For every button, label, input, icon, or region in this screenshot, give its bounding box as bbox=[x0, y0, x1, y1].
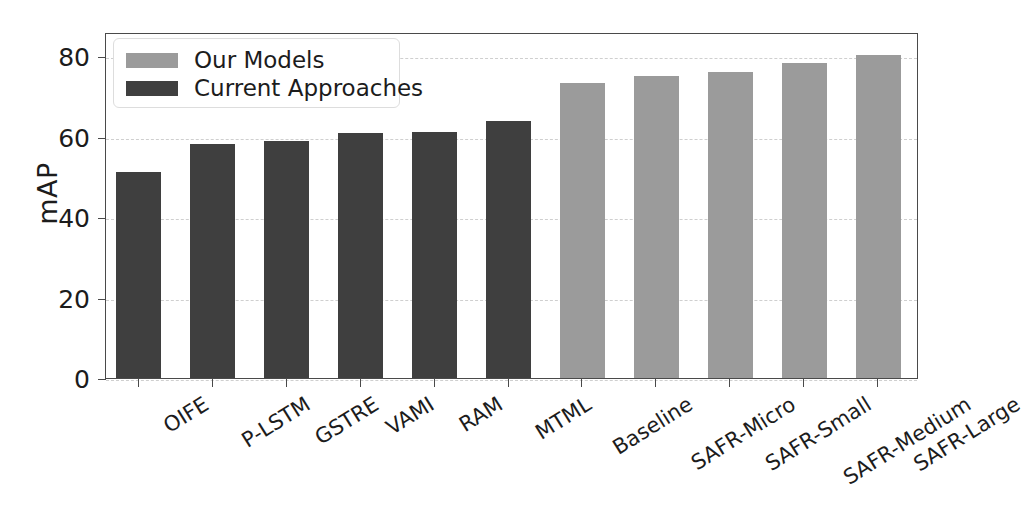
x-tick-mark-1 bbox=[212, 379, 213, 387]
y-tick-label-0: 0 bbox=[28, 365, 90, 394]
x-tick-mark-4 bbox=[434, 379, 435, 387]
legend-label: Current Approaches bbox=[194, 77, 423, 100]
legend-label: Our Models bbox=[194, 49, 325, 72]
x-tick-label-ram: RAM bbox=[455, 392, 507, 437]
bar-vami bbox=[338, 133, 383, 378]
legend-swatch-icon-dark bbox=[126, 81, 178, 96]
x-tick-mark-9 bbox=[803, 379, 804, 387]
x-tick-label-gstre: GSTRE bbox=[310, 392, 382, 450]
bar-mtml bbox=[486, 121, 531, 378]
bar-safr-small bbox=[708, 72, 753, 378]
bar-safr-large bbox=[856, 55, 901, 378]
x-tick-mark-2 bbox=[286, 379, 287, 387]
x-tick-mark-0 bbox=[138, 379, 139, 387]
x-tick-label-oife: OIFE bbox=[159, 392, 212, 438]
legend-entry-current-approaches: Current Approaches bbox=[126, 74, 387, 102]
x-tick-label-vami: VAMI bbox=[382, 392, 439, 440]
x-tick-mark-6 bbox=[581, 379, 582, 387]
y-tick-label-40: 40 bbox=[28, 204, 90, 233]
x-tick-mark-8 bbox=[729, 379, 730, 387]
x-tick-label-p-lstm: P-LSTM bbox=[237, 392, 314, 453]
x-tick-label-baseline: Baseline bbox=[609, 392, 697, 460]
bar-safr-micro bbox=[634, 76, 679, 378]
legend-swatch-icon-light bbox=[126, 53, 178, 68]
bar-oife bbox=[116, 172, 161, 378]
x-tick-mark-3 bbox=[360, 379, 361, 387]
bar-gstre bbox=[264, 141, 309, 378]
bar-ram bbox=[412, 132, 457, 378]
bar-p-lstm bbox=[190, 144, 235, 378]
y-tick-label-60: 60 bbox=[28, 123, 90, 152]
legend: Our ModelsCurrent Approaches bbox=[113, 38, 400, 108]
x-tick-label-mtml: MTML bbox=[531, 392, 595, 445]
y-tick-label-80: 80 bbox=[28, 43, 90, 72]
x-tick-mark-7 bbox=[655, 379, 656, 387]
x-tick-mark-5 bbox=[508, 379, 509, 387]
y-tick-label-20: 20 bbox=[28, 284, 90, 313]
bar-safr-medium bbox=[782, 63, 827, 378]
y-tick-mark-0 bbox=[98, 379, 106, 380]
gridline-y-0 bbox=[106, 380, 917, 381]
x-tick-mark-10 bbox=[877, 379, 878, 387]
legend-entry-our-models: Our Models bbox=[126, 46, 387, 74]
bar-baseline bbox=[560, 83, 605, 378]
